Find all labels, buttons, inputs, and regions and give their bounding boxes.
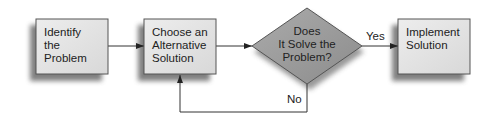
edge-label-no: No [287, 93, 302, 105]
node-identify-problem: Identify the Problem [36, 19, 108, 74]
node-decision-line-3: Problem? [282, 51, 331, 63]
node-choose-line-2: Alternative [152, 39, 206, 51]
edge-label-yes: Yes [366, 30, 385, 42]
node-implement-solution: Implement Solution [398, 19, 470, 74]
node-implement-line-2: Solution [406, 39, 448, 51]
node-identify-line-3: Problem [44, 52, 87, 64]
node-implement-line-1: Implement [406, 26, 460, 38]
node-choose-alternative: Choose an Alternative Solution [144, 19, 216, 74]
node-decision: Does It Solve the Problem? [252, 8, 362, 84]
node-identify-line-2: the [44, 39, 60, 51]
node-decision-line-1: Does [294, 25, 321, 37]
node-decision-line-2: It Solve the [278, 38, 336, 50]
node-choose-line-1: Choose an [152, 26, 208, 38]
node-identify-line-1: Identify [44, 26, 81, 38]
flowchart-canvas: Identify the Problem Choose an Alternati… [0, 0, 493, 127]
node-choose-line-3: Solution [152, 52, 194, 64]
